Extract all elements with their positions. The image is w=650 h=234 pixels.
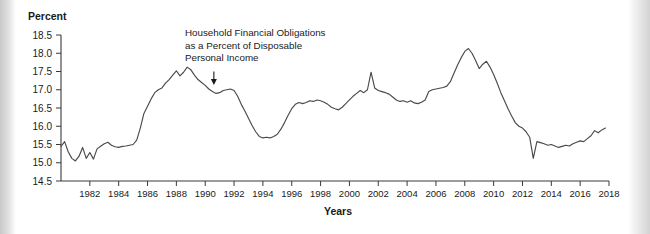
x-tick-label: 2004 [397,188,418,199]
y-tick-label: 16.0 [33,121,53,132]
x-tick-label: 2008 [454,188,475,199]
annotation-line: Personal Income [185,52,259,63]
y-tick-label: 16.5 [33,103,53,114]
annotation-line: Household Financial Obligations [185,27,326,38]
x-tick-label: 2014 [541,188,562,199]
chart-page: Percent 18.518.017.517.016.516.015.515.0… [0,0,650,234]
series-annotation: Household Financial Obligationsas a Perc… [185,27,326,85]
y-tick-label: 17.0 [33,84,53,95]
x-tick-label: 1998 [310,188,331,199]
y-tick-label: 15.0 [33,157,53,168]
x-tick-label: 2006 [425,188,446,199]
x-tick-label: 1990 [195,188,216,199]
y-axis-title: Percent [28,10,67,22]
x-tick-label: 2010 [483,188,504,199]
x-tick-label: 1982 [79,188,100,199]
x-tick-label: 2016 [570,188,591,199]
x-axis-ticks: 1982198419861988199019921994199619982000… [79,181,619,199]
x-tick-label: 1988 [166,188,187,199]
chart-figure: Percent 18.518.017.517.016.516.015.515.0… [0,0,650,234]
x-tick-label: 1984 [108,188,129,199]
x-tick-label: 2000 [339,188,360,199]
data-series-line [61,49,605,161]
annotation-line: as a Percent of Disposable [185,40,303,51]
x-axis-title: Years [324,205,352,217]
y-tick-label: 18.5 [33,30,53,41]
x-tick-label: 1986 [137,188,158,199]
annotation-arrow-head [211,79,217,85]
x-tick-label: 2012 [512,188,533,199]
y-tick-label: 14.5 [33,176,53,187]
y-tick-label: 17.5 [33,66,53,77]
y-tick-label: 15.5 [33,139,53,150]
y-tick-label: 18.0 [33,48,53,59]
x-tick-label: 1996 [281,188,302,199]
x-tick-label: 1992 [223,188,244,199]
x-tick-label: 1994 [252,188,273,199]
y-axis-ticks: 18.518.017.517.016.516.015.515.014.5 [33,30,61,187]
x-tick-label: 2018 [598,188,619,199]
x-tick-label: 2002 [368,188,389,199]
line-chart-svg: Percent 18.518.017.517.016.516.015.515.0… [0,0,650,234]
